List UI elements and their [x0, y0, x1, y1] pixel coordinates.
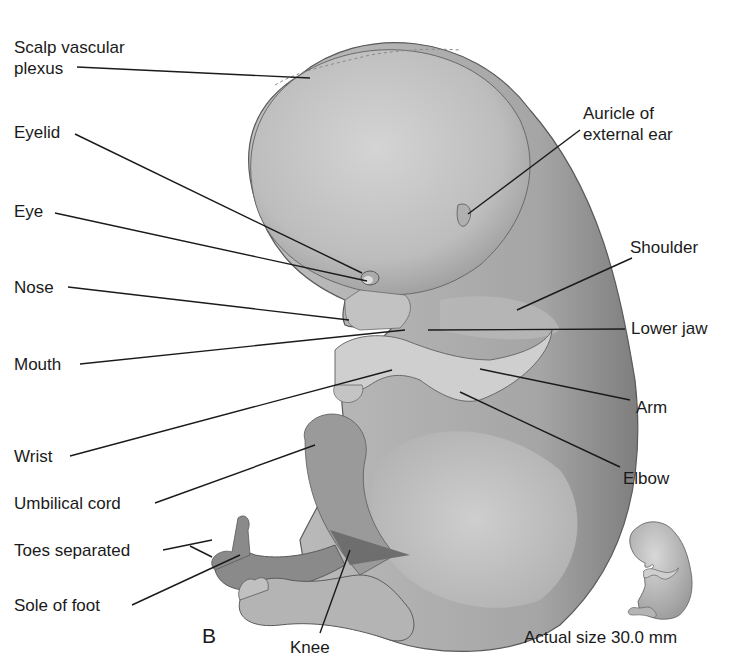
label-toes-separated: Toes separated	[14, 541, 130, 561]
actual-size-embryo	[628, 522, 692, 619]
leader-nose	[68, 287, 349, 320]
leader-toes-1	[163, 540, 212, 550]
leader-toes-2	[190, 546, 212, 557]
label-mouth: Mouth	[14, 355, 61, 375]
label-eyelid: Eyelid	[14, 123, 60, 143]
label-eye: Eye	[14, 202, 43, 222]
label-scalp-line1: Scalp vascular	[14, 37, 125, 58]
label-auricle-line1: Auricle of	[583, 103, 673, 124]
panel-letter: B	[202, 624, 216, 648]
label-nose: Nose	[14, 278, 54, 298]
label-wrist: Wrist	[14, 447, 52, 467]
label-sole-of-foot: Sole of foot	[14, 596, 100, 616]
label-scalp-vascular-plexus: Scalp vascular plexus	[14, 37, 125, 79]
label-umbilical-cord: Umbilical cord	[14, 494, 121, 514]
embryo-diagram	[0, 0, 733, 664]
embryo-head	[251, 50, 530, 295]
label-auricle-of-external-ear: Auricle of external ear	[583, 103, 673, 145]
actual-size-caption: Actual size 30.0 mm	[524, 628, 677, 648]
label-shoulder: Shoulder	[630, 238, 698, 258]
embryo-face	[345, 290, 410, 330]
label-elbow: Elbow	[623, 469, 669, 489]
label-lower-jaw: Lower jaw	[631, 319, 708, 339]
leader-umbilical	[155, 445, 315, 503]
label-knee: Knee	[290, 638, 330, 658]
label-auricle-line2: external ear	[583, 124, 673, 145]
label-scalp-line2: plexus	[14, 58, 125, 79]
label-arm: Arm	[636, 398, 667, 418]
